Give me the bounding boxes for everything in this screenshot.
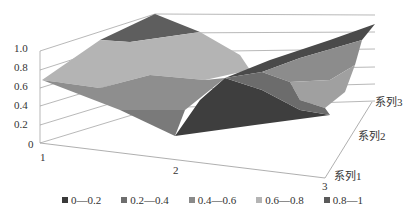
svg-text:0.4: 0.4 xyxy=(14,99,28,111)
legend-item: 0.8—1 xyxy=(324,194,363,206)
x-axis-labels: 1 2 3 xyxy=(40,151,328,192)
svg-text:1: 1 xyxy=(40,151,46,163)
svg-text:3: 3 xyxy=(322,180,328,192)
legend-item: 0.4—0.6 xyxy=(189,194,237,206)
legend: 0—0.2 0.2—0.4 0.4—0.6 0.6—0.8 0.8—1 xyxy=(62,194,363,206)
legend-label: 0.4—0.6 xyxy=(198,194,237,206)
legend-swatch xyxy=(121,197,127,203)
svg-text:2: 2 xyxy=(173,164,179,176)
y-axis-labels: 1.0 0.8 0.6 0.4 0.2 0 xyxy=(14,42,34,150)
legend-swatch xyxy=(62,197,68,203)
legend-item: 0—0.2 xyxy=(62,194,101,206)
svg-text:0.8: 0.8 xyxy=(14,61,28,73)
legend-swatch xyxy=(189,197,195,203)
surface-chart: 1.0 0.8 0.6 0.4 0.2 0 1 2 3 系列1 系列2 系列3 xyxy=(0,0,418,219)
legend-swatch xyxy=(256,197,262,203)
legend-label: 0—0.2 xyxy=(71,194,101,206)
legend-label: 0.2—0.4 xyxy=(130,194,169,206)
legend-swatch xyxy=(324,197,330,203)
svg-text:1.0: 1.0 xyxy=(14,42,28,54)
legend-label: 0.8—1 xyxy=(333,194,363,206)
svg-text:0.6: 0.6 xyxy=(14,80,28,92)
legend-item: 0.6—0.8 xyxy=(256,194,304,206)
svg-text:系列2: 系列2 xyxy=(358,129,386,142)
legend-label: 0.6—0.8 xyxy=(265,194,304,206)
svg-text:系列3: 系列3 xyxy=(375,95,403,108)
svg-text:0: 0 xyxy=(28,138,34,150)
svg-text:系列1: 系列1 xyxy=(334,169,362,182)
svg-text:0.2: 0.2 xyxy=(14,118,28,130)
legend-item: 0.2—0.4 xyxy=(121,194,169,206)
